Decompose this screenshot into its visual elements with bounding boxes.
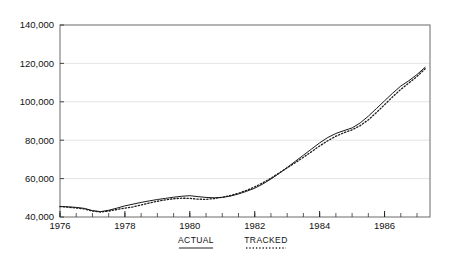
plot-border: [60, 25, 430, 217]
y-tick-label: 80,000: [25, 135, 54, 146]
x-tick-label: 1986: [374, 220, 395, 231]
y-axis-ticks: [60, 25, 64, 217]
chart-container: 40,00060,00080,000100,000120,000140,000 …: [0, 0, 449, 260]
y-tick-label: 140,000: [20, 19, 54, 30]
gridlines: [60, 63, 430, 178]
x-tick-label: 1980: [179, 220, 200, 231]
x-axis-labels: 197619781980198219841986: [49, 220, 395, 231]
y-tick-label: 100,000: [20, 96, 54, 107]
series-actual-line: [60, 67, 425, 211]
y-tick-label: 60,000: [25, 173, 54, 184]
line-chart: 40,00060,00080,000100,000120,000140,000 …: [0, 0, 449, 260]
y-axis-labels: 40,00060,00080,000100,000120,000140,000: [20, 19, 54, 222]
x-tick-label: 1978: [114, 220, 135, 231]
chart-legend: ACTUALTRACKED: [178, 235, 288, 248]
plot-frame: [60, 25, 430, 217]
y-tick-label: 120,000: [20, 58, 54, 69]
x-tick-label: 1976: [49, 220, 70, 231]
x-tick-label: 1982: [244, 220, 265, 231]
legend-label-actual: ACTUAL: [178, 235, 214, 245]
legend-label-tracked: TRACKED: [244, 235, 287, 245]
x-tick-label: 1984: [309, 220, 330, 231]
x-axis-minor-ticks: [60, 213, 417, 217]
series-path-actual: [60, 67, 425, 211]
